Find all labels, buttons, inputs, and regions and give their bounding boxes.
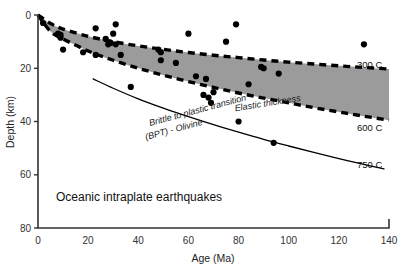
x-tick-label: 100 bbox=[280, 235, 297, 246]
data-point bbox=[113, 21, 119, 27]
data-point bbox=[60, 47, 66, 53]
data-point bbox=[128, 84, 134, 90]
isotherm-label-300c: 300 C bbox=[357, 59, 382, 70]
isotherm-label-750c: 750 C bbox=[357, 159, 382, 170]
y-tick-label: 20 bbox=[20, 63, 32, 74]
data-point bbox=[246, 81, 252, 87]
data-point bbox=[235, 118, 241, 124]
data-point bbox=[103, 36, 109, 42]
y-axis-title: Depth (km) bbox=[4, 96, 16, 148]
data-point bbox=[93, 25, 99, 31]
data-point bbox=[271, 140, 277, 146]
data-point bbox=[361, 41, 367, 47]
figure-container: 020406080100120140 020406080 Age (Ma) De… bbox=[0, 0, 408, 269]
x-tick-label: 0 bbox=[35, 235, 41, 246]
data-point bbox=[276, 70, 282, 76]
y-tick-label: 0 bbox=[25, 10, 31, 21]
data-point bbox=[118, 52, 124, 58]
data-point bbox=[233, 21, 239, 27]
data-point bbox=[203, 76, 209, 82]
data-point bbox=[93, 52, 99, 58]
data-point bbox=[173, 60, 179, 66]
y-tick-label: 80 bbox=[20, 223, 32, 234]
data-point bbox=[261, 65, 267, 71]
x-tick-label: 80 bbox=[233, 235, 245, 246]
x-tick-label: 140 bbox=[381, 235, 398, 246]
x-tick-label: 120 bbox=[331, 235, 348, 246]
data-point bbox=[193, 73, 199, 79]
data-point bbox=[113, 41, 119, 47]
figure-caption: Oceanic intraplate earthquakes bbox=[56, 190, 222, 204]
data-point bbox=[57, 35, 63, 41]
data-point bbox=[158, 49, 164, 55]
x-tick-label: 20 bbox=[83, 235, 95, 246]
data-point bbox=[210, 89, 216, 95]
x-axis-title: Age (Ma) bbox=[191, 252, 234, 264]
x-tick-label: 40 bbox=[133, 235, 145, 246]
data-point bbox=[205, 94, 211, 100]
data-point bbox=[110, 31, 116, 37]
data-point bbox=[40, 20, 46, 26]
chart-canvas: 020406080100120140 020406080 Age (Ma) De… bbox=[0, 0, 408, 269]
y-tick-label: 60 bbox=[20, 169, 32, 180]
y-tick-label: 40 bbox=[20, 116, 32, 127]
data-point bbox=[80, 49, 86, 55]
isotherm-label-600c: 600 C bbox=[357, 122, 382, 133]
data-point bbox=[185, 31, 191, 37]
data-point bbox=[223, 39, 229, 45]
data-point bbox=[158, 57, 164, 63]
x-tick-label: 60 bbox=[183, 235, 195, 246]
